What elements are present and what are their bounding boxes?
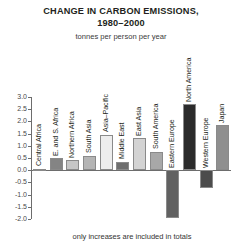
bar[interactable] — [133, 138, 146, 170]
y-tick-label: -2.0 — [15, 214, 27, 223]
bar[interactable] — [150, 152, 163, 170]
bar[interactable] — [200, 170, 213, 188]
bar-category-label: Middle East — [118, 123, 126, 160]
bar-category-label: Northern Africa — [68, 111, 76, 158]
chart-footnote: only increases are included in totals — [0, 232, 242, 242]
bar-category-label: East Asia — [135, 107, 143, 136]
y-tick-label: -0.5 — [15, 177, 27, 186]
bar[interactable] — [116, 162, 129, 171]
bar-category-label: Central Africa — [35, 125, 43, 167]
y-tick-label: -1.0 — [15, 190, 27, 199]
bar-category-label: North America — [185, 58, 193, 102]
bar-category-label: Eastern Europe — [168, 119, 176, 168]
bar-category-label: Japan — [218, 103, 226, 122]
y-tick-label: 1.5 — [17, 129, 27, 138]
y-tick-label: 3.0 — [17, 92, 27, 101]
bar[interactable] — [33, 169, 46, 171]
bar[interactable] — [166, 170, 179, 218]
y-tick-label: 0.5 — [17, 153, 27, 162]
bar-category-label: South Asia — [85, 120, 93, 153]
bar-category-label: E. and S. Africa — [52, 107, 60, 155]
bar[interactable] — [100, 135, 113, 170]
bar[interactable] — [216, 125, 229, 170]
y-tick-label: 1.0 — [17, 141, 27, 150]
bar-category-label: South America — [152, 104, 160, 149]
bar-category-label: Western Europe — [202, 117, 210, 167]
bar[interactable] — [183, 104, 196, 170]
y-tick-mark — [28, 219, 31, 220]
y-tick-label: 2.5 — [17, 104, 27, 113]
y-tick-label: 2.0 — [17, 116, 27, 125]
chart-plot: 3.02.52.01.51.00.50.0-0.5-1.0-1.5-2.0 Ce… — [0, 0, 242, 251]
bar[interactable] — [50, 158, 63, 170]
y-tick-label: -1.5 — [15, 202, 27, 211]
y-tick-label: 0.0 — [17, 165, 27, 174]
bar[interactable] — [83, 156, 96, 171]
bar-category-label: Asia–Pacific — [102, 94, 110, 132]
bar[interactable] — [66, 160, 79, 170]
